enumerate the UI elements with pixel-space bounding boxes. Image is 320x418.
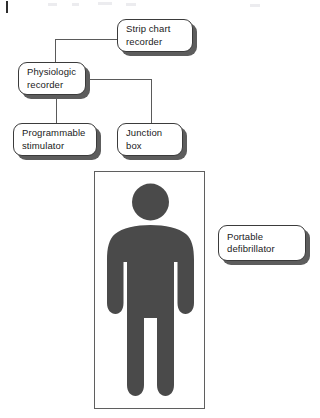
patient-figure-icon	[95, 172, 206, 410]
scan-artifact	[250, 4, 260, 7]
node-strip-chart-recorder[interactable]: Strip chart recorder	[117, 19, 193, 52]
connector-physiologic-to-junction-horizontal	[88, 79, 152, 80]
page-margin-mark	[6, 1, 8, 13]
connector-physiologic-to-strip-chart-vertical	[55, 39, 56, 63]
node-junction-box[interactable]: Junction box	[117, 123, 183, 156]
scan-artifact	[126, 3, 136, 6]
node-programmable-stimulator[interactable]: Programmable stimulator	[13, 123, 97, 156]
node-physiologic-recorder[interactable]: Physiologic recorder	[18, 62, 86, 95]
node-label-programmable-stimulator: Programmable stimulator	[22, 127, 86, 152]
connector-physiologic-to-junction-vertical	[151, 79, 152, 124]
node-label-strip-chart-recorder: Strip chart recorder	[126, 23, 170, 48]
connector-physiologic-to-strip-chart-horizontal	[55, 39, 118, 40]
scan-artifact	[72, 3, 79, 6]
patient-panel	[94, 171, 205, 409]
connector-physiologic-to-stimulator	[56, 99, 57, 124]
node-label-junction-box: Junction box	[126, 127, 162, 152]
scan-artifact	[48, 3, 57, 6]
node-portable-defibrillator[interactable]: Portable defibrillator	[218, 225, 306, 261]
node-label-physiologic-recorder: Physiologic recorder	[27, 66, 76, 91]
node-label-portable-defibrillator: Portable defibrillator	[227, 231, 275, 256]
diagram-canvas: Strip chart recorder Physiologic recorde…	[0, 0, 320, 418]
scan-artifact	[98, 2, 112, 5]
